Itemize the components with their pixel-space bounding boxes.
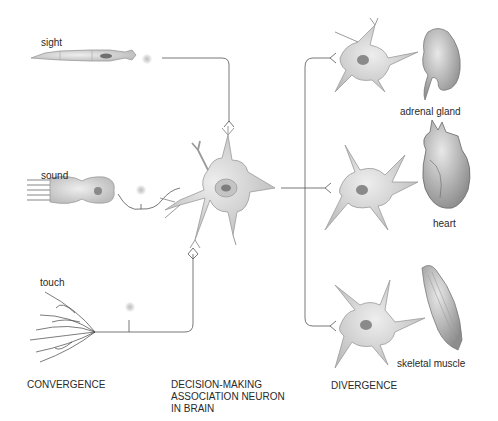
adrenal-gland-illustration xyxy=(423,29,461,101)
motor-neuron-skeletal-muscle xyxy=(335,280,425,368)
caption-convergence: CONVERGENCE xyxy=(27,379,105,391)
label-touch: touch xyxy=(40,277,64,288)
label-heart: heart xyxy=(433,218,456,229)
caption-line-2: ASSOCIATION NEURON xyxy=(171,391,285,403)
skeletal-muscle-illustration xyxy=(422,265,462,350)
motor-neuron-heart xyxy=(325,145,418,230)
label-skeletal-muscle: skeletal muscle xyxy=(397,358,465,369)
sight-receptor-cell xyxy=(31,50,153,65)
caption-line-3: IN BRAIN xyxy=(171,403,285,415)
association-neuron xyxy=(160,126,275,248)
caption-association-neuron: DECISION-MAKING ASSOCIATION NEURON IN BR… xyxy=(171,379,285,415)
stimulus-glow-icon xyxy=(135,184,147,196)
label-sound: sound xyxy=(41,170,68,181)
label-sight: sight xyxy=(41,37,62,48)
caption-divergence: DIVERGENCE xyxy=(331,380,397,392)
caption-line-1: DECISION-MAKING xyxy=(171,379,285,391)
label-adrenal-gland: adrenal gland xyxy=(400,106,461,117)
stimulus-glow-icon xyxy=(141,53,153,65)
stimulus-glow-icon xyxy=(124,301,136,313)
touch-receptor-endings xyxy=(30,292,95,362)
heart-illustration xyxy=(423,120,470,208)
motor-neuron-adrenal xyxy=(335,18,418,92)
